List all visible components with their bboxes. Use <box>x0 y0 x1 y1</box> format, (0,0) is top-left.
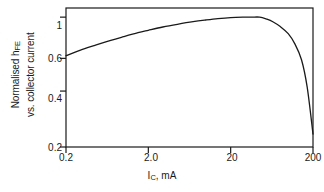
plot-area <box>0 0 324 192</box>
x-axis-tick-marks <box>66 147 313 153</box>
data-curve <box>66 17 313 134</box>
plot-frame <box>66 8 313 147</box>
y-axis-tick-marks <box>60 17 66 147</box>
chart-figure: Normalised hFE vs. collector current 1 0… <box>0 0 324 192</box>
